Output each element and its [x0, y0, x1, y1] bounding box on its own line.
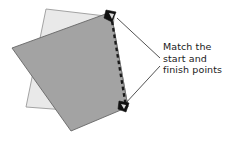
diagram-canvas: Match the start and finish points: [0, 0, 229, 142]
leader-line-to-start-point: [117, 18, 160, 58]
instruction-callout: Match the start and finish points: [163, 41, 229, 76]
callout-line-1: Match the: [163, 41, 229, 53]
foreground-quadrilateral: [12, 12, 128, 131]
callout-line-2: start and: [163, 53, 229, 65]
leader-line-to-finish-point: [124, 66, 160, 105]
callout-line-3: finish points: [163, 64, 229, 76]
